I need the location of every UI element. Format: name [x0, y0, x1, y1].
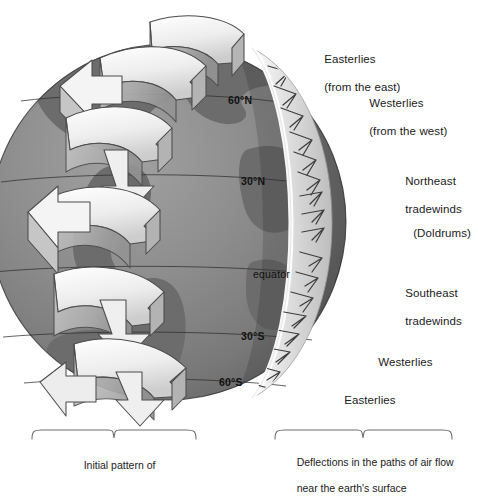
- wind-label-line2: (from the west): [369, 125, 447, 137]
- lat-label-30s: 30°S: [241, 330, 265, 342]
- wind-label-southeast-tradewinds: Southeast tradewinds: [392, 272, 462, 342]
- caption-braces: [32, 430, 452, 439]
- lat-label-60s: 60°S: [219, 376, 243, 388]
- wind-label-line1: Westerlies: [378, 356, 432, 368]
- brace-right: [275, 430, 452, 439]
- lat-label-30n: 30°N: [241, 175, 265, 187]
- caption-line2: near the earth's surface: [297, 482, 407, 494]
- wind-label-westerlies-north: Westerlies (from the west): [356, 82, 447, 152]
- caption-line1: Initial pattern of: [84, 459, 156, 471]
- lat-label-equator: equator: [253, 268, 290, 280]
- wind-label-line1: Westerlies: [369, 97, 423, 109]
- caption-line1: Deflections in the paths of air flow: [297, 456, 454, 468]
- wind-label-line1: Easterlies: [344, 394, 396, 406]
- wind-label-doldrums: (Doldrums): [400, 212, 471, 254]
- wind-label-line1: (Doldrums): [413, 227, 471, 239]
- wind-label-westerlies-south: Westerlies: [365, 341, 433, 383]
- brace-left: [32, 430, 196, 439]
- wind-label-line2: tradewinds: [405, 315, 462, 327]
- lat-label-60n: 60°N: [228, 94, 252, 106]
- wind-label-line1: Southeast: [405, 287, 458, 299]
- caption-right-text: Deflections in the paths of air flow nea…: [285, 443, 454, 496]
- caption-left-text: Initial pattern of: [72, 446, 155, 485]
- wind-label-line1: Easterlies: [324, 53, 376, 65]
- wind-label-line1: Northeast: [405, 175, 456, 187]
- wind-label-easterlies-south: Easterlies: [331, 379, 396, 421]
